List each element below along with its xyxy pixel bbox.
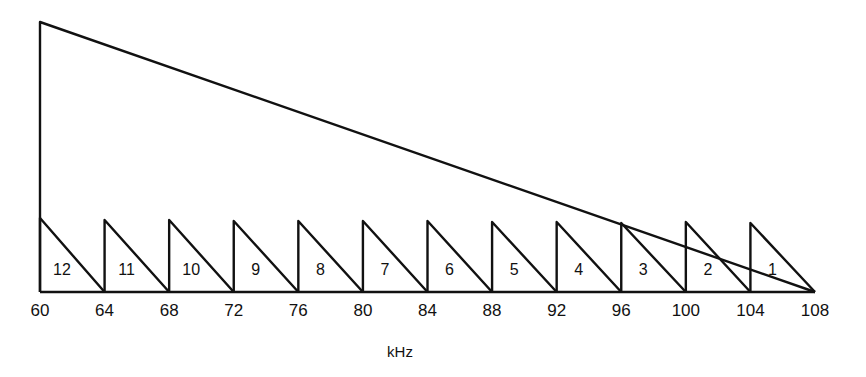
channel-label: 8 bbox=[316, 261, 325, 278]
tick-label: 100 bbox=[672, 301, 700, 320]
channel-label: 11 bbox=[118, 261, 135, 278]
tick-label: 64 bbox=[95, 301, 114, 320]
channel-label: 2 bbox=[703, 261, 712, 278]
tick-label: 72 bbox=[224, 301, 243, 320]
channel-3-triangle bbox=[621, 223, 686, 292]
channel-label: 10 bbox=[182, 261, 200, 278]
unit-label: kHz bbox=[387, 343, 413, 360]
channel-label: 6 bbox=[445, 261, 454, 278]
tick-label: 60 bbox=[31, 301, 50, 320]
channel-label: 5 bbox=[510, 261, 519, 278]
tick-label: 80 bbox=[353, 301, 372, 320]
channel-2-triangle bbox=[686, 222, 751, 292]
channel-label: 4 bbox=[574, 261, 583, 278]
channel-9-triangle bbox=[234, 221, 299, 292]
channel-8-triangle bbox=[298, 221, 363, 292]
channel-label: 3 bbox=[639, 261, 648, 278]
channel-12-triangle bbox=[40, 218, 105, 292]
channel-4-triangle bbox=[557, 222, 622, 292]
channel-7-triangle bbox=[363, 221, 428, 292]
tick-label: 88 bbox=[483, 301, 502, 320]
channel-label: 7 bbox=[380, 261, 389, 278]
tick-label: 108 bbox=[801, 301, 829, 320]
channel-5-triangle bbox=[492, 222, 557, 292]
tick-label: 92 bbox=[547, 301, 566, 320]
tick-label: 76 bbox=[289, 301, 308, 320]
channel-6-triangle bbox=[428, 221, 493, 292]
tick-label: 68 bbox=[160, 301, 179, 320]
tick-label: 96 bbox=[612, 301, 631, 320]
channel-10-triangle bbox=[169, 220, 234, 292]
tick-label: 104 bbox=[736, 301, 764, 320]
frequency-diagram: 1211109876543216064687276808488929610010… bbox=[0, 0, 866, 377]
channel-11-triangle bbox=[105, 220, 170, 292]
channel-label: 12 bbox=[53, 261, 71, 278]
channel-label: 1 bbox=[768, 261, 777, 278]
tick-label: 84 bbox=[418, 301, 437, 320]
channel-label: 9 bbox=[251, 261, 260, 278]
